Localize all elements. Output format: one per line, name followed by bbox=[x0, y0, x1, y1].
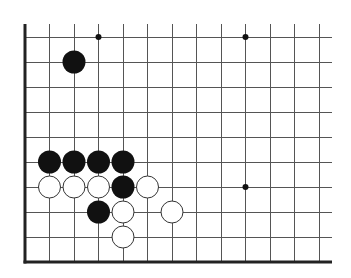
black-stone[interactable] bbox=[87, 201, 110, 224]
black-stone[interactable] bbox=[112, 151, 135, 174]
white-stone[interactable] bbox=[63, 176, 85, 198]
star-point-icon bbox=[243, 184, 249, 190]
white-stone[interactable] bbox=[112, 201, 134, 223]
stones bbox=[38, 51, 183, 249]
star-point-icon bbox=[96, 34, 102, 40]
black-stone[interactable] bbox=[112, 176, 135, 199]
white-stone[interactable] bbox=[161, 201, 183, 223]
white-stone[interactable] bbox=[137, 176, 159, 198]
go-board[interactable] bbox=[0, 0, 351, 278]
white-stone[interactable] bbox=[39, 176, 61, 198]
star-point-icon bbox=[243, 34, 249, 40]
black-stone[interactable] bbox=[63, 51, 86, 74]
white-stone[interactable] bbox=[112, 226, 134, 248]
black-stone[interactable] bbox=[38, 151, 61, 174]
black-stone[interactable] bbox=[87, 151, 110, 174]
white-stone[interactable] bbox=[88, 176, 110, 198]
black-stone[interactable] bbox=[63, 151, 86, 174]
